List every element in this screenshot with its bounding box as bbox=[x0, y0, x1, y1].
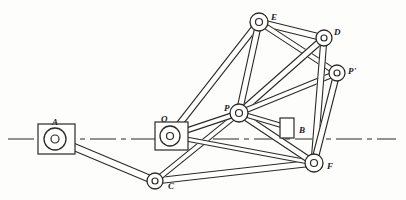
joint-P bbox=[230, 104, 248, 122]
link-c-f-body bbox=[155, 163, 314, 181]
joint-label-E: E bbox=[271, 13, 277, 22]
joint-label-F: F bbox=[327, 162, 333, 171]
joint-C-pin bbox=[152, 178, 158, 184]
joint-D bbox=[316, 30, 332, 46]
joint-Pp bbox=[329, 65, 345, 81]
joint-label-C: C bbox=[168, 182, 174, 191]
joint-label-O: O bbox=[161, 115, 168, 124]
joint-O bbox=[160, 126, 180, 146]
joint-P-pin bbox=[236, 110, 243, 117]
joint-C bbox=[147, 173, 163, 189]
joint-label-Pp: P' bbox=[348, 67, 356, 76]
links-group bbox=[54, 19, 340, 184]
joint-label-A: A bbox=[52, 118, 58, 127]
joint-F-pin bbox=[311, 160, 318, 167]
joint-Pp-pin bbox=[334, 70, 340, 76]
joint-A bbox=[44, 128, 66, 150]
joint-label-P: P bbox=[224, 104, 230, 113]
linkage-diagram: AOCPEDP'FB bbox=[0, 0, 406, 200]
joint-A-pin bbox=[51, 135, 59, 143]
joint-O-pin bbox=[167, 133, 174, 140]
joint-label-D: D bbox=[334, 28, 341, 37]
linkage-svg-canvas bbox=[0, 0, 406, 200]
joint-E-pin bbox=[256, 19, 263, 26]
joint-D-pin bbox=[321, 35, 327, 41]
slider-block-b bbox=[280, 118, 294, 138]
joint-E bbox=[250, 13, 268, 31]
joint-F bbox=[305, 154, 323, 172]
joint-label-B: B bbox=[299, 126, 305, 135]
